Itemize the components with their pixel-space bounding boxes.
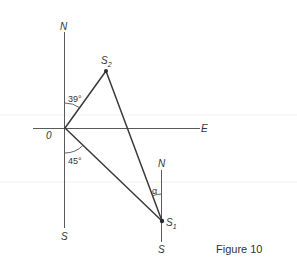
s1-north-label: N (158, 158, 166, 169)
s1-label: S1 (166, 217, 177, 230)
line-s2-s1 (106, 71, 162, 221)
east-label: E (201, 123, 208, 134)
s2-label: S2 (101, 55, 112, 68)
angle-label-45: 45° (68, 156, 82, 166)
figure-caption: Figure 10 (216, 243, 262, 255)
triangle (65, 69, 164, 223)
north-label: N (60, 21, 68, 32)
s1-south-label: S (158, 244, 165, 255)
bearing-diagram: N S E 0 N S S2 S1 39° 45° α Figure 10 (0, 0, 297, 271)
s1-compass: N S (158, 158, 166, 255)
angle-label-39: 39° (68, 94, 82, 104)
point-s1 (160, 219, 164, 223)
line-o-s1 (65, 128, 162, 221)
origin-label: 0 (46, 130, 52, 141)
origin-compass: N S E 0 (33, 21, 208, 242)
angle-arc-45 (65, 145, 83, 153)
angle-label-alpha: α (152, 186, 157, 196)
south-label: S (61, 231, 68, 242)
point-s2 (104, 69, 108, 73)
